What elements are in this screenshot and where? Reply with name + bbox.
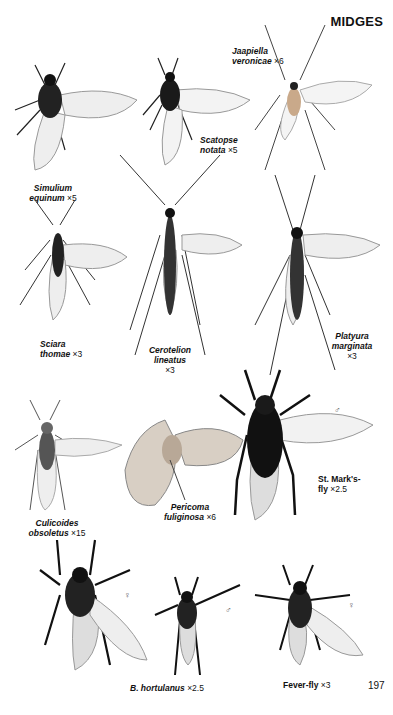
hortulanus-male-illustration <box>150 575 245 680</box>
cerotelion-illustration <box>110 155 245 355</box>
caption-platyura: Platyura marginata ×3 <box>322 331 382 361</box>
page-number: 197 <box>368 680 385 691</box>
caption-sciara: Sciara thomae ×3 <box>40 339 82 359</box>
female-symbol: ♀ <box>348 600 355 610</box>
caption-hortulanus: B. hortulanus ×2.5 <box>130 683 204 693</box>
caption-scatopse: Scatopse notata ×5 <box>200 135 238 155</box>
hortulanus-female-illustration <box>35 535 150 675</box>
jaapiella-illustration <box>250 20 385 180</box>
female-symbol: ♀ <box>124 590 131 600</box>
caption-cerotelion: Cerotelion lineatus ×3 <box>140 345 200 375</box>
caption-stmarks-fly: St. Mark's- fly ×2.5 <box>318 474 361 494</box>
stmarks-fly-illustration <box>215 365 375 525</box>
male-symbol: ♂ <box>225 605 232 615</box>
caption-fever-fly: Fever-fly ×3 <box>283 680 331 690</box>
male-symbol: ♂ <box>334 405 341 415</box>
culicoides-illustration <box>10 400 125 520</box>
fever-fly-illustration <box>255 560 365 675</box>
